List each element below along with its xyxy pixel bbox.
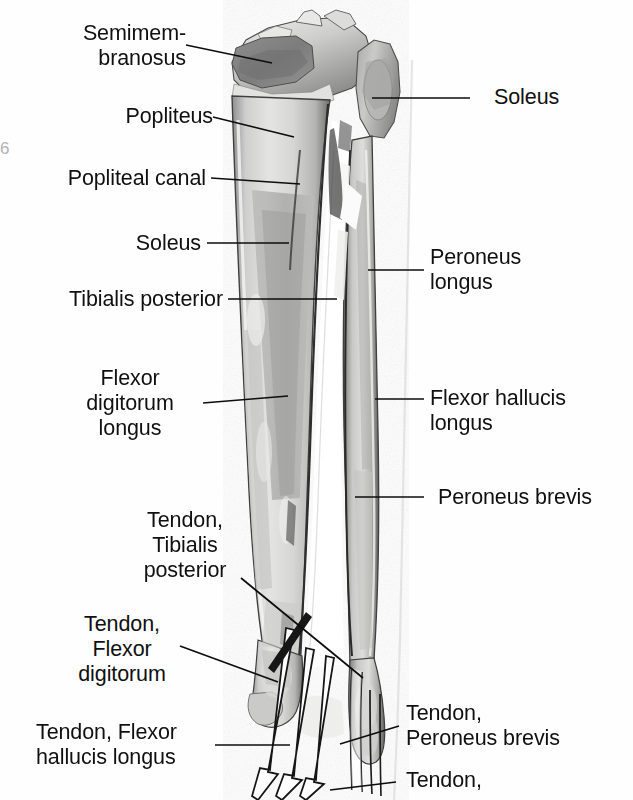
label-tendon-flexor-digitorum: Tendon, Flexor digitorum — [70, 612, 174, 687]
label-tendon-flexor-hallucis-longus: Tendon, Flexor hallucis longus — [36, 720, 236, 770]
label-peroneus-longus: Peroneus longus — [430, 245, 600, 295]
leader-tendon-clipped — [330, 782, 396, 790]
label-soleus-right: Soleus — [494, 85, 624, 110]
label-popliteus: Popliteus — [23, 104, 213, 129]
label-flexor-digitorum-longus: Flexor digitorum longus — [62, 366, 198, 441]
label-tibialis-posterior: Tibialis posterior — [8, 287, 223, 312]
label-tendon-tibialis-posterior: Tendon, Tibialis posterior — [126, 508, 244, 583]
figure-page: 6 Semimem- branosus Popliteus Popliteal … — [0, 0, 633, 800]
label-tendon-clipped: Tendon, — [406, 768, 566, 793]
label-semimembranosus: Semimem- branosus — [20, 21, 186, 71]
label-soleus-left: Soleus — [23, 231, 201, 256]
label-peroneus-brevis: Peroneus brevis — [438, 485, 628, 510]
page-edge-glyph: 6 — [0, 139, 9, 159]
label-tendon-peroneus-brevis: Tendon, Peroneus brevis — [406, 701, 606, 751]
label-flexor-hallucis-longus: Flexor hallucis longus — [430, 386, 620, 436]
label-popliteal-canal: Popliteal canal — [11, 166, 206, 191]
